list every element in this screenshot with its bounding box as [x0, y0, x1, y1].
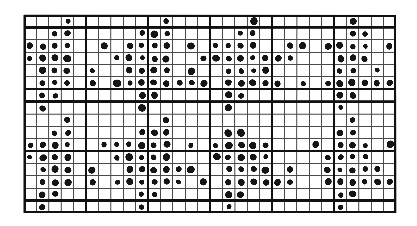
dot-grid-plate: [20, 11, 400, 217]
figure-page: [0, 0, 417, 226]
dot-grid-canvas: [20, 11, 400, 217]
